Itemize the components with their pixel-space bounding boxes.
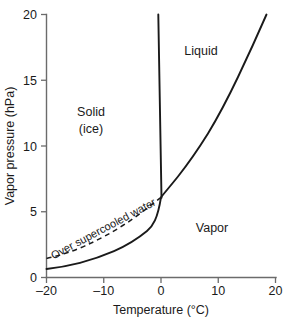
x-tick-label-10: 10 [211, 284, 225, 298]
x-tick-label-minus10: –10 [93, 284, 114, 298]
x-tick-label-20: 20 [269, 284, 283, 298]
y-tick-label-5: 5 [30, 205, 37, 219]
y-axis-title: Vapor pressure (hPa) [3, 87, 17, 206]
y-tick-label-20: 20 [23, 8, 37, 22]
phase-diagram-figure: 0 5 10 15 20 –20 –10 0 10 20 Temperatur [0, 0, 291, 321]
region-label-solid: Solid [77, 105, 105, 119]
region-label-ice: (ice) [79, 122, 103, 136]
x-axis-title: Temperature (°C) [113, 303, 209, 317]
region-label-vapor: Vapor [196, 221, 228, 235]
region-label-liquid: Liquid [184, 44, 217, 58]
y-tick-label-15: 15 [23, 74, 37, 88]
x-tick-label-0: 0 [158, 284, 165, 298]
phase-diagram-svg: 0 5 10 15 20 –20 –10 0 10 20 Temperatur [0, 0, 291, 321]
y-tick-label-0: 0 [30, 271, 37, 285]
x-tick-label-minus20: –20 [36, 284, 57, 298]
chart-background [0, 0, 291, 321]
y-tick-label-10: 10 [23, 140, 37, 154]
